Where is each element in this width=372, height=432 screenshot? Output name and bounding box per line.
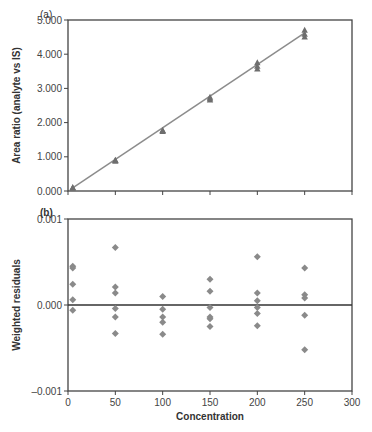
data-point-diamond — [69, 296, 76, 303]
data-point-triangle — [159, 127, 165, 133]
data-point-diamond — [254, 310, 261, 317]
x-tick-label: 50 — [110, 397, 122, 408]
x-tick-label: 250 — [296, 397, 313, 408]
data-point-diamond — [112, 289, 119, 296]
y-axis-label-b: Weighted residuals — [11, 259, 22, 351]
x-tick-label: 100 — [154, 397, 171, 408]
chart-figure: 0.0001.0002.0003.0004.0005.000(a)Area ra… — [0, 0, 372, 432]
y-axis-label-a: Area ratio (analyte vs IS) — [11, 47, 22, 164]
y-tick-label: –0.001 — [31, 386, 62, 397]
data-point-diamond — [112, 314, 119, 321]
data-point-diamond — [112, 305, 119, 312]
x-tick-label: 300 — [344, 397, 361, 408]
data-point-diamond — [301, 312, 308, 319]
panel-label-b: (b) — [40, 207, 53, 218]
x-axis-label: Concentration — [176, 411, 244, 422]
panel-a-calibration-curve: 0.0001.0002.0003.0004.0005.000(a)Area ra… — [11, 9, 352, 197]
panel-label-a: (a) — [40, 9, 52, 20]
y-tick-label: 3.000 — [37, 83, 62, 94]
data-point-diamond — [254, 253, 261, 260]
data-point-diamond — [159, 319, 166, 326]
data-point-diamond — [254, 322, 261, 329]
data-point-diamond — [254, 289, 261, 296]
data-point-diamond — [69, 281, 76, 288]
data-point-diamond — [254, 297, 261, 304]
panel-b-weighted-residuals: –0.0010.0000.001050100150200250300(b)Con… — [11, 207, 361, 422]
plot-frame — [68, 20, 352, 191]
data-point-diamond — [112, 244, 119, 251]
data-point-diamond — [69, 307, 76, 314]
y-tick-label: 0.000 — [37, 300, 62, 311]
data-point-diamond — [112, 283, 119, 290]
data-point-diamond — [207, 323, 214, 330]
x-tick-label: 0 — [65, 397, 71, 408]
y-tick-label: 4.000 — [37, 49, 62, 60]
x-tick-label: 200 — [249, 397, 266, 408]
regression-line — [73, 33, 305, 188]
data-point-triangle — [301, 27, 307, 33]
y-tick-label: 0.000 — [37, 186, 62, 197]
y-tick-label: 2.000 — [37, 117, 62, 128]
data-point-diamond — [207, 276, 214, 283]
data-point-diamond — [301, 265, 308, 272]
data-point-triangle — [70, 184, 76, 190]
data-point-diamond — [112, 330, 119, 337]
data-point-diamond — [159, 306, 166, 313]
data-point-diamond — [159, 331, 166, 338]
data-point-diamond — [207, 288, 214, 295]
y-tick-label: 1.000 — [37, 151, 62, 162]
data-point-diamond — [159, 293, 166, 300]
x-tick-label: 150 — [202, 397, 219, 408]
data-point-diamond — [301, 346, 308, 353]
